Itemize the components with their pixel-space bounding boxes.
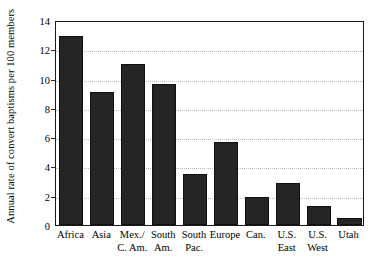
- bar: [276, 183, 300, 225]
- x-axis-tick-label: Mex./C. Am.: [117, 229, 148, 254]
- x-axis-tick-label: SouthAm.: [148, 229, 179, 254]
- y-axis-tick-labels: 02468101214: [26, 21, 50, 226]
- y-axis-title: Annual rate of convert baptisms per 100 …: [0, 0, 22, 232]
- y-axis-tick-label: 0: [45, 221, 50, 232]
- bar: [183, 174, 207, 225]
- y-axis-tick-label: 4: [45, 162, 50, 173]
- y-axis-title-text: Annual rate of convert baptisms per 100 …: [6, 9, 17, 224]
- x-axis-tick-label-line2: Pac.: [179, 242, 210, 255]
- x-axis-tick-label-line1: U.S.: [277, 229, 296, 240]
- x-axis-tick-label-line1: Asia: [92, 229, 111, 240]
- x-axis-tick-label-line1: Europe: [210, 229, 240, 240]
- x-axis-tick-label-line1: South: [151, 229, 176, 240]
- x-axis-tick-label: SouthPac.: [179, 229, 210, 254]
- x-axis-tick-labels: AfricaAsiaMex./C. Am.SouthAm.SouthPac.Eu…: [55, 229, 364, 269]
- x-axis-tick-label: Asia: [86, 229, 117, 242]
- bar-chart-figure: Annual rate of convert baptisms per 100 …: [0, 0, 376, 269]
- bar: [245, 197, 269, 225]
- x-axis-tick-label-line1: Can.: [246, 229, 266, 240]
- x-axis-tick-label-line1: Utah: [338, 229, 358, 240]
- y-axis-tick-mark: [51, 138, 55, 139]
- x-axis-tick-label-line2: East: [271, 242, 302, 255]
- x-axis-tick-label-line2: C. Am.: [117, 242, 148, 255]
- y-axis-tick-label: 14: [40, 16, 51, 27]
- bar: [337, 218, 361, 225]
- x-axis-tick-label: U.S.West: [302, 229, 333, 254]
- bars-layer: [56, 22, 363, 225]
- y-axis-tick-label: 12: [40, 45, 51, 56]
- bar: [121, 64, 145, 225]
- y-axis-tick-label: 2: [45, 191, 50, 202]
- bar: [152, 84, 176, 225]
- x-axis-tick-label-line1: Africa: [57, 229, 84, 240]
- x-axis-tick-label: Africa: [55, 229, 86, 242]
- x-axis-tick-label: Can.: [240, 229, 271, 242]
- x-axis-tick-label-line1: U.S.: [308, 229, 327, 240]
- x-axis-tick-label: Europe: [210, 229, 241, 242]
- x-axis-tick-label-line1: Mex./: [120, 229, 145, 240]
- y-axis-tick-mark: [51, 50, 55, 51]
- bar: [214, 142, 238, 225]
- y-axis-tick-mark: [51, 109, 55, 110]
- x-axis-tick-label: U.S.East: [271, 229, 302, 254]
- x-axis-tick-label-line2: Am.: [148, 242, 179, 255]
- bar: [307, 206, 331, 225]
- y-axis-tick-label: 8: [45, 103, 50, 114]
- y-axis-tick-mark: [51, 80, 55, 81]
- bar: [59, 36, 83, 225]
- y-axis-tick-label: 10: [40, 74, 51, 85]
- plot-area: [55, 21, 364, 226]
- x-axis-tick-label: Utah: [333, 229, 364, 242]
- y-axis-tick-label: 6: [45, 133, 50, 144]
- x-axis-tick-label-line2: West: [302, 242, 333, 255]
- y-axis-tick-mark: [51, 197, 55, 198]
- bar: [90, 92, 114, 225]
- x-axis-tick-label-line1: South: [182, 229, 207, 240]
- y-axis-tick-mark: [51, 167, 55, 168]
